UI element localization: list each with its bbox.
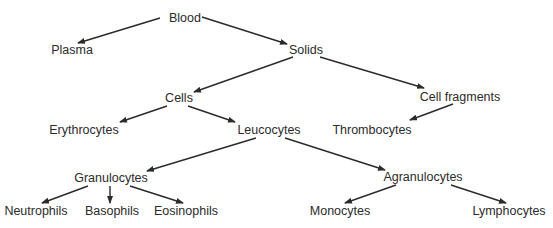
arrow-agranulocytes-to-lymphocytes — [451, 185, 506, 203]
arrow-solids-to-cell_fragments — [320, 57, 424, 88]
arrow-blood-to-solids — [202, 17, 287, 44]
node-leucocytes: Leucocytes — [237, 123, 300, 137]
arrow-granulocytes-to-neutrophils — [42, 186, 88, 203]
arrow-leucocytes-to-granulocytes — [147, 138, 256, 171]
node-monocytes: Monocytes — [310, 204, 370, 218]
node-thrombocytes: Thrombocytes — [332, 123, 411, 137]
arrow-leucocytes-to-agranulocytes — [285, 138, 385, 170]
node-neutrophils: Neutrophils — [4, 204, 67, 218]
node-agranulocytes: Agranulocytes — [383, 170, 462, 184]
node-lymphocytes: Lymphocytes — [472, 204, 545, 218]
arrow-granulocytes-to-eosinophils — [130, 186, 183, 203]
arrow-cell_fragments-to-thrombocytes — [410, 104, 453, 120]
node-basophils: Basophils — [85, 204, 139, 218]
node-erythrocytes: Erythrocytes — [49, 123, 118, 137]
node-granulocytes: Granulocytes — [74, 171, 148, 185]
arrow-solids-to-cells — [194, 57, 293, 92]
node-cell-fragments: Cell fragments — [420, 90, 501, 104]
node-eosinophils: Eosinophils — [154, 204, 218, 218]
diagram-arrows — [0, 0, 553, 228]
node-cells: Cells — [165, 91, 193, 105]
node-plasma: Plasma — [51, 43, 93, 57]
blood-composition-diagram: Blood Plasma Solids Cells Cell fragments… — [0, 0, 553, 228]
node-blood: Blood — [169, 11, 201, 25]
node-solids: Solids — [289, 43, 323, 57]
arrow-blood-to-plasma — [78, 18, 160, 43]
arrow-cells-to-erythrocytes — [120, 106, 167, 122]
arrow-agranulocytes-to-monocytes — [345, 185, 396, 203]
arrow-cells-to-leucocytes — [188, 106, 235, 122]
